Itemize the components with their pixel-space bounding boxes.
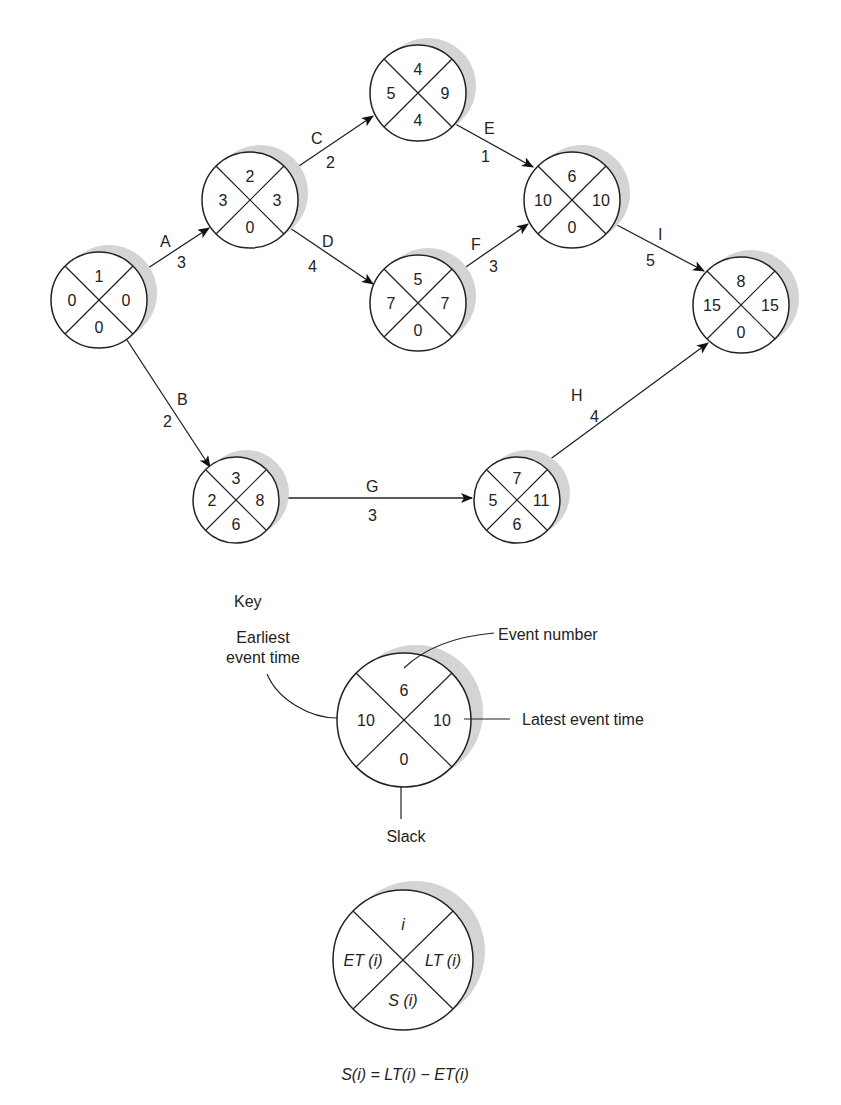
- node-event-number: 1: [95, 268, 104, 285]
- node-latest-time: 15: [761, 297, 779, 314]
- legend-key: Key Earliest event time Event number Lat…: [226, 593, 644, 845]
- symbolic-slack: S (i): [388, 992, 417, 1009]
- event-node-1: 1 0 0 0: [51, 245, 157, 348]
- node-latest-time: 7: [441, 295, 450, 312]
- node-slack: 0: [568, 219, 577, 236]
- key-slack-label: Slack: [386, 828, 426, 845]
- edge-f-duration: 3: [489, 258, 498, 275]
- node-slack: 6: [513, 516, 522, 533]
- event-node-5: 5 7 7 0: [370, 248, 476, 351]
- edge-h: [545, 343, 708, 463]
- key-event-number-label: Event number: [498, 626, 598, 643]
- edge-f-label: F: [471, 236, 481, 253]
- event-node-4: 4 5 9 4: [370, 38, 476, 141]
- edge-b-duration: 2: [163, 413, 172, 430]
- node-earliest-time: 3: [219, 192, 228, 209]
- event-node-2: 2 3 3 0: [202, 145, 308, 248]
- key-earliest-label-line2: event time: [226, 649, 300, 666]
- node-latest-time: 10: [592, 192, 610, 209]
- node-earliest-time: 10: [534, 192, 552, 209]
- node-earliest-time: 10: [357, 712, 375, 729]
- node-earliest-time: 5: [489, 492, 498, 509]
- key-title: Key: [234, 593, 262, 610]
- edge-h-duration: 4: [590, 408, 599, 425]
- edge-a: [139, 228, 209, 274]
- node-latest-time: 3: [273, 192, 282, 209]
- node-event-number: 5: [414, 271, 423, 288]
- pert-network-diagram: A 3 B 2 C 2 D 4 E 1 F 3 I 5 G 3 H 4: [0, 0, 841, 1105]
- node-slack: 0: [400, 751, 409, 768]
- edge-a-label: A: [160, 233, 171, 250]
- edge-b-label: B: [177, 391, 188, 408]
- node-latest-time: 11: [533, 492, 550, 509]
- key-earliest-label-line1: Earliest: [236, 629, 290, 646]
- symbolic-earliest-time: ET (i): [343, 952, 382, 969]
- node-earliest-time: 0: [68, 292, 77, 309]
- edge-h-label: H: [571, 387, 583, 404]
- edge-a-duration: 3: [177, 254, 186, 271]
- node-latest-time: 8: [256, 492, 265, 509]
- node-slack: 0: [737, 324, 746, 341]
- event-node-7: 7 5 11 6: [474, 450, 570, 543]
- event-node-6: 6 10 10 0: [524, 145, 630, 248]
- edge-d-duration: 4: [308, 258, 317, 275]
- symbolic-event-number: i: [401, 916, 405, 933]
- node-event-number: 3: [232, 470, 241, 487]
- edge-d-label: D: [322, 233, 334, 250]
- key-example-node: 6 10 10 0: [337, 645, 483, 787]
- event-node-8: 8 15 15 0: [693, 250, 799, 353]
- node-earliest-time: 7: [387, 295, 396, 312]
- node-event-number: 8: [737, 273, 746, 290]
- edge-b: [127, 340, 210, 467]
- symbolic-latest-time: LT (i): [425, 952, 461, 969]
- node-slack: 6: [232, 516, 241, 533]
- slack-formula: S(i) = LT(i) − ET(i): [341, 1066, 469, 1083]
- node-event-number: 4: [414, 61, 423, 78]
- node-latest-time: 0: [122, 292, 131, 309]
- node-earliest-time: 2: [208, 492, 217, 509]
- node-slack: 0: [414, 322, 423, 339]
- edge-c-duration: 2: [326, 154, 335, 171]
- node-event-number: 6: [400, 682, 409, 699]
- edge-c-label: C: [311, 130, 323, 147]
- node-latest-time: 9: [441, 85, 450, 102]
- edge-e-label: E: [484, 120, 495, 137]
- node-slack: 0: [246, 219, 255, 236]
- edge-i-duration: 5: [646, 252, 655, 269]
- node-earliest-time: 5: [387, 85, 396, 102]
- leader-earliest: [267, 674, 337, 718]
- edge-e-duration: 1: [481, 148, 490, 165]
- node-event-number: 2: [246, 168, 255, 185]
- node-latest-time: 10: [433, 712, 451, 729]
- node-slack: 4: [414, 112, 423, 129]
- node-event-number: 6: [568, 168, 577, 185]
- node-earliest-time: 15: [703, 297, 721, 314]
- node-slack: 0: [95, 319, 104, 336]
- edge-i-label: I: [658, 226, 662, 243]
- edge-g-label: G: [366, 478, 378, 495]
- symbolic-node: i ET (i) LT (i) S (i): [333, 881, 485, 1030]
- key-latest-label: Latest event time: [522, 711, 644, 728]
- node-event-number: 7: [513, 470, 522, 487]
- edge-g-duration: 3: [368, 507, 377, 524]
